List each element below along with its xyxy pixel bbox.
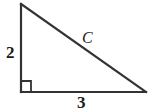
right-triangle-figure: 2 3 C (0, 0, 155, 110)
vertical-leg-label: 2 (6, 44, 15, 61)
right-angle-marker-icon (21, 81, 31, 92)
hypotenuse-label: C (82, 30, 93, 46)
horizontal-leg-label: 3 (77, 94, 86, 110)
hypotenuse-line (21, 4, 146, 92)
